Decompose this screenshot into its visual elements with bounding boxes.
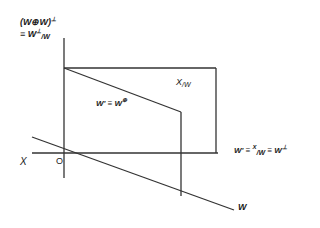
quotient-subscript: /W — [41, 33, 50, 40]
x-axis-left-label: X — [20, 157, 27, 167]
y-axis-label-line2: ≡ W⊥/W — [20, 28, 50, 40]
w-line — [32, 137, 234, 210]
w-prime-equiv-w-text: W' ≡ W — [96, 99, 122, 108]
x-label-text: X — [20, 156, 27, 167]
inner-region-label: W' ≡ W⊕ — [96, 97, 127, 108]
x-axis-right-label: W' ≡ X/W ≡ W⊥ — [234, 144, 287, 156]
perp-superscript: ⊥ — [51, 16, 56, 22]
oplus-superscript: ⊕ — [122, 97, 127, 103]
perp-superscript: ⊥ — [282, 144, 287, 150]
origin-text: O — [56, 156, 63, 166]
quotient-region-label: X/W — [176, 78, 191, 88]
y-axis-label-line1: (W⊕W)⊥ — [20, 16, 56, 27]
w-line-label: W — [238, 203, 247, 212]
y-axis-label-text: (W⊕W) — [20, 17, 51, 27]
w-prime-equiv-text: W' ≡ — [234, 146, 253, 155]
frac-denominator: /W — [257, 149, 266, 156]
equiv-w-suffix: ≡ W — [265, 146, 282, 155]
origin-label: O — [56, 157, 63, 166]
quotient-subscript: /W — [182, 81, 191, 88]
equiv-w-text: ≡ W — [20, 29, 36, 39]
w-text: W — [238, 202, 247, 212]
